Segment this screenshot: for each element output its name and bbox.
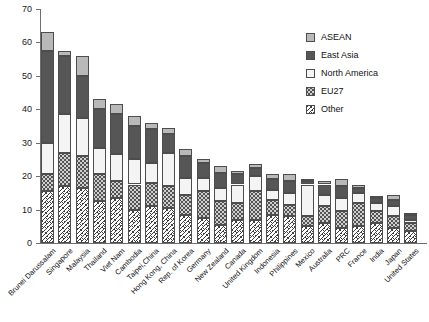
bar-segment-other bbox=[249, 220, 262, 243]
bar-germany bbox=[197, 9, 210, 243]
bar-hong-kong-china bbox=[162, 9, 175, 243]
bar-segment-eu27 bbox=[128, 185, 141, 210]
bar-segment-north-america bbox=[162, 153, 175, 186]
bar-segment-eu27 bbox=[283, 205, 296, 217]
legend-item-easia[interactable]: East Asia bbox=[306, 46, 424, 64]
bar-segment-east-asia bbox=[249, 168, 262, 176]
bar-segment-north-america bbox=[214, 188, 227, 201]
bar-segment-other bbox=[41, 191, 54, 243]
bar-segment-asean bbox=[214, 166, 227, 173]
bar-segment-eu27 bbox=[110, 181, 123, 198]
bar-segment-asean bbox=[335, 179, 348, 186]
bar-segment-eu27 bbox=[93, 174, 106, 201]
bar-segment-other bbox=[335, 228, 348, 243]
bar-segment-east-asia bbox=[404, 215, 417, 220]
bar-segment-north-america bbox=[283, 193, 296, 205]
bar-segment-eu27 bbox=[145, 183, 158, 206]
bar-segment-other bbox=[214, 225, 227, 243]
bar-segment-north-america bbox=[231, 185, 244, 203]
bar-segment-other bbox=[197, 218, 210, 243]
bar-canada bbox=[231, 9, 244, 243]
bar-segment-north-america bbox=[197, 178, 210, 191]
bar-segment-asean bbox=[404, 213, 417, 215]
legend-label: ASEAN bbox=[321, 33, 352, 42]
bar-segment-asean bbox=[266, 174, 279, 179]
bar-segment-north-america bbox=[128, 159, 141, 184]
bar-philippines bbox=[283, 9, 296, 243]
bar-segment-north-america bbox=[58, 114, 71, 152]
bar-segment-other bbox=[93, 201, 106, 243]
bar-segment-east-asia bbox=[318, 185, 331, 195]
bar-segment-east-asia bbox=[231, 174, 244, 184]
bar-segment-east-asia bbox=[352, 188, 365, 193]
bar-segment-asean bbox=[41, 32, 54, 50]
bar-segment-east-asia bbox=[41, 51, 54, 143]
bar-segment-eu27 bbox=[197, 191, 210, 218]
bar-segment-eu27 bbox=[249, 191, 262, 219]
bar-segment-asean bbox=[110, 104, 123, 114]
legend-label: East Asia bbox=[321, 51, 359, 60]
bar-segment-asean bbox=[352, 185, 365, 188]
bar-segment-east-asia bbox=[370, 198, 383, 203]
bar-singapore bbox=[58, 9, 71, 243]
bar-segment-north-america bbox=[249, 176, 262, 191]
bar-brunei-darussalam bbox=[41, 9, 54, 243]
bar-thailand bbox=[93, 9, 106, 243]
bar-segment-asean bbox=[179, 149, 192, 156]
legend-item-namer[interactable]: North America bbox=[306, 64, 424, 82]
bar-segment-asean bbox=[249, 164, 262, 167]
bar-segment-other bbox=[404, 231, 417, 243]
bar-segment-asean bbox=[145, 123, 158, 130]
legend-swatch-icon-easia bbox=[306, 51, 315, 60]
bar-segment-eu27 bbox=[58, 153, 71, 186]
legend-label: Other bbox=[321, 105, 344, 114]
bar-segment-east-asia bbox=[197, 163, 210, 178]
bar-cambodia bbox=[128, 9, 141, 243]
bar-segment-east-asia bbox=[76, 76, 89, 118]
bar-segment-other bbox=[179, 215, 192, 243]
bar-segment-east-asia bbox=[128, 126, 141, 159]
bar-segment-asean bbox=[370, 196, 383, 198]
bar-segment-eu27 bbox=[301, 216, 314, 226]
bar-segment-other bbox=[283, 216, 296, 243]
bar-segment-east-asia bbox=[335, 186, 348, 198]
legend-item-eu27[interactable]: EU27 bbox=[306, 82, 424, 100]
bar-segment-north-america bbox=[145, 163, 158, 183]
stacked-bar-chart: 010203040506070 Brunei DarussalamSingapo… bbox=[0, 0, 429, 322]
bar-rep-of-korea bbox=[179, 9, 192, 243]
bar-segment-eu27 bbox=[404, 223, 417, 231]
bar-segment-asean bbox=[231, 171, 244, 174]
bar-segment-east-asia bbox=[93, 109, 106, 147]
bar-segment-other bbox=[352, 226, 365, 243]
bar-segment-eu27 bbox=[214, 201, 227, 224]
bar-segment-east-asia bbox=[110, 114, 123, 154]
bar-segment-other bbox=[145, 206, 158, 243]
bar-segment-asean bbox=[93, 99, 106, 109]
bar-segment-eu27 bbox=[335, 211, 348, 228]
bar-segment-north-america bbox=[301, 185, 314, 217]
bar-segment-other bbox=[301, 226, 314, 243]
bar-segment-east-asia bbox=[301, 181, 314, 184]
bar-segment-eu27 bbox=[318, 206, 331, 223]
bar-united-kingdom bbox=[249, 9, 262, 243]
bar-segment-east-asia bbox=[58, 56, 71, 115]
bar-segment-other bbox=[128, 210, 141, 243]
bar-viet-nam bbox=[110, 9, 123, 243]
bar-segment-asean bbox=[128, 116, 141, 126]
legend-label: North America bbox=[321, 69, 378, 78]
bar-segment-east-asia bbox=[283, 181, 296, 193]
bar-segment-other bbox=[58, 186, 71, 243]
bar-segment-east-asia bbox=[214, 173, 227, 188]
legend-item-asean[interactable]: ASEAN bbox=[306, 28, 424, 46]
bar-segment-north-america bbox=[387, 206, 400, 216]
legend-swatch-icon-asean bbox=[306, 33, 315, 42]
bar-segment-north-america bbox=[110, 154, 123, 181]
bar-segment-eu27 bbox=[76, 156, 89, 188]
bar-segment-east-asia bbox=[179, 156, 192, 178]
legend-item-other[interactable]: Other bbox=[306, 100, 424, 118]
bar-indonesia bbox=[266, 9, 279, 243]
bar-taipei-china bbox=[145, 9, 158, 243]
chart-legend: ASEANEast AsiaNorth AmericaEU27Other bbox=[306, 28, 424, 118]
bar-segment-eu27 bbox=[231, 203, 244, 220]
bar-segment-eu27 bbox=[162, 186, 175, 208]
